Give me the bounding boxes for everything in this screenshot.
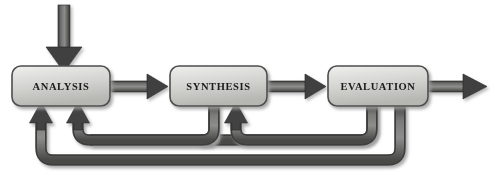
flow-diagram-canvas: ANALYSIS SYNTHESIS EVALUATION (0, 0, 495, 181)
arrow-synthesis-to-evaluation (267, 74, 326, 99)
stage-label-evaluation: EVALUATION (340, 81, 415, 92)
feedback-loop-group (30, 102, 401, 160)
stage-label-analysis: ANALYSIS (33, 81, 90, 92)
arrow-analysis-to-synthesis (110, 74, 168, 99)
arrow-evaluation-output (428, 74, 487, 99)
process-flow-diagram: ANALYSIS SYNTHESIS EVALUATION (0, 0, 495, 181)
stage-box-synthesis[interactable]: SYNTHESIS (170, 66, 267, 106)
input-arrow (46, 5, 82, 72)
stage-label-synthesis: SYNTHESIS (186, 81, 250, 92)
feedback-loop-inner-left (90, 104, 214, 140)
stage-box-evaluation[interactable]: EVALUATION (328, 66, 428, 106)
feedback-loop-inner-right (225, 102, 373, 140)
stage-box-analysis[interactable]: ANALYSIS (12, 66, 110, 106)
